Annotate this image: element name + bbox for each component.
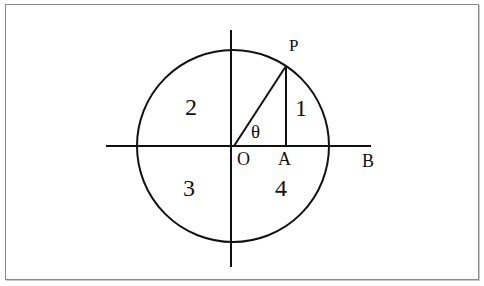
- label-theta: θ: [251, 121, 260, 142]
- quadrant-label-2: 2: [185, 94, 197, 120]
- label-a: A: [278, 149, 291, 169]
- label-o: O: [237, 149, 250, 169]
- quadrant-label-3: 3: [183, 175, 195, 201]
- label-b: B: [362, 151, 374, 171]
- label-p: P: [289, 36, 298, 55]
- unit-circle-diagram: P O A B θ 1 2 3 4: [0, 0, 484, 286]
- quadrant-label-4: 4: [275, 175, 287, 201]
- quadrant-label-1: 1: [295, 95, 307, 121]
